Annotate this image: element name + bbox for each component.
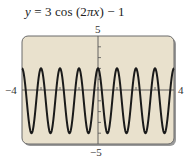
y-max-label: 5 <box>95 24 101 35</box>
x-max-label: 4 <box>178 85 184 96</box>
y-min-label: −5 <box>90 147 102 158</box>
x-min-label: −4 <box>5 85 17 96</box>
